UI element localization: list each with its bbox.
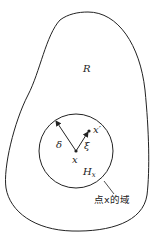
- point-x-prime-label: x′: [93, 124, 102, 135]
- point-x-label: x: [72, 154, 78, 165]
- neighborhood-label: Hx: [82, 166, 96, 179]
- point-x: [74, 149, 77, 152]
- bond-label: ξ: [84, 140, 90, 151]
- point-x-prime: [87, 129, 90, 132]
- domain-caption: 点x的域: [94, 194, 130, 205]
- caption-leader-line: [104, 181, 114, 194]
- peridynamic-domain-diagram: R δ ξ x x′ Hx 点x的域: [0, 0, 155, 240]
- radius-label: δ: [56, 139, 62, 150]
- region-label: R: [82, 63, 91, 74]
